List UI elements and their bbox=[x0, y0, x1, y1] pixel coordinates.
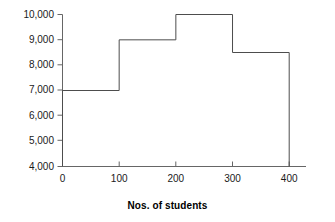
y-tick-label-10000: 10,000 bbox=[8, 9, 54, 20]
x-axis-title: Nos. of students bbox=[0, 200, 335, 211]
y-tick-label-8000: 8,000 bbox=[8, 59, 54, 70]
x-tick-label-200: 200 bbox=[156, 173, 196, 184]
y-tick-marks bbox=[58, 15, 63, 167]
x-tick-label-100: 100 bbox=[99, 173, 139, 184]
x-tick-label-400: 400 bbox=[269, 173, 309, 184]
y-tick-label-9000: 9,000 bbox=[8, 34, 54, 45]
x-tick-label-300: 300 bbox=[213, 173, 253, 184]
x-tick-marks bbox=[63, 162, 290, 167]
y-tick-label-7000: 7,000 bbox=[8, 84, 54, 95]
y-tick-label-5000: 5,000 bbox=[8, 135, 54, 146]
y-tick-label-6000: 6,000 bbox=[8, 110, 54, 121]
histogram-chart: 10,000 9,000 8,000 7,000 6,000 5,000 4,0… bbox=[0, 0, 335, 222]
histogram-outline bbox=[63, 15, 290, 167]
x-tick-label-0: 0 bbox=[43, 173, 83, 184]
y-tick-label-4000: 4,000 bbox=[8, 161, 54, 172]
